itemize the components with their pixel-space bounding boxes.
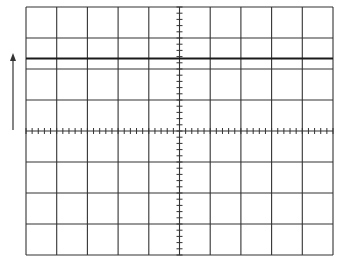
arrow-head xyxy=(10,53,16,61)
oscilloscope-graticule xyxy=(0,0,341,267)
up-arrow-icon xyxy=(10,53,16,130)
